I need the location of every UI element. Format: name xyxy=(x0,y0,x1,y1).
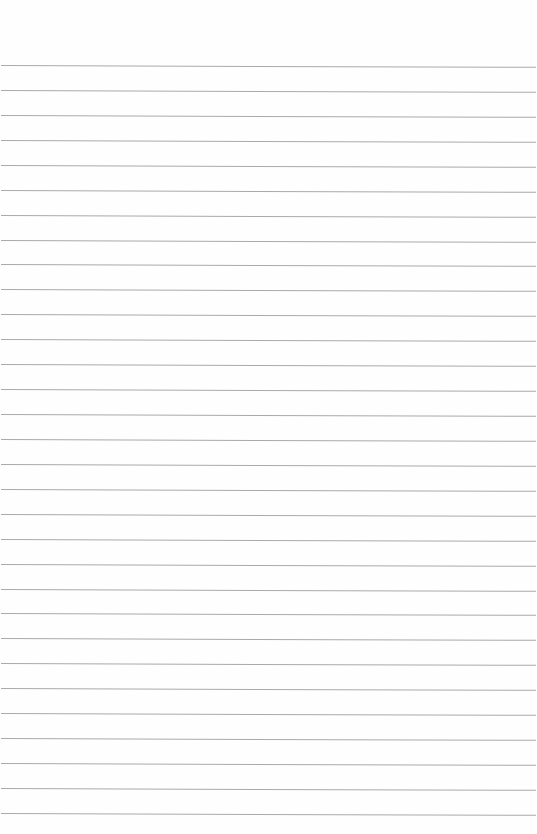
ruled-line xyxy=(1,65,536,68)
ruled-line xyxy=(1,115,536,118)
ruled-line xyxy=(1,589,536,592)
ruled-line xyxy=(1,638,536,641)
ruled-line xyxy=(1,663,536,666)
ruled-line xyxy=(1,489,536,492)
ruled-line xyxy=(1,240,536,243)
ruled-line xyxy=(1,713,536,716)
ruled-line xyxy=(1,389,536,392)
ruled-line xyxy=(1,539,536,542)
ruled-line xyxy=(1,763,536,766)
ruled-line xyxy=(1,414,536,417)
ruled-line xyxy=(1,90,536,93)
ruled-line xyxy=(1,688,536,691)
ruled-line xyxy=(1,364,536,367)
ruled-line xyxy=(1,314,536,317)
ruled-line xyxy=(1,339,536,342)
ruled-line xyxy=(1,289,536,292)
ruled-line xyxy=(1,813,536,816)
ruled-line xyxy=(1,464,536,467)
ruled-line xyxy=(1,738,536,741)
ruled-line xyxy=(1,788,536,791)
ruled-paper-page xyxy=(0,0,537,834)
ruled-line xyxy=(1,439,536,442)
ruled-line xyxy=(1,264,536,267)
ruled-line xyxy=(1,613,536,616)
ruled-line xyxy=(1,514,536,517)
ruled-line xyxy=(1,140,536,143)
ruled-line xyxy=(1,215,536,218)
ruled-line xyxy=(1,190,536,193)
ruled-line xyxy=(1,165,536,168)
ruled-line xyxy=(1,564,536,567)
